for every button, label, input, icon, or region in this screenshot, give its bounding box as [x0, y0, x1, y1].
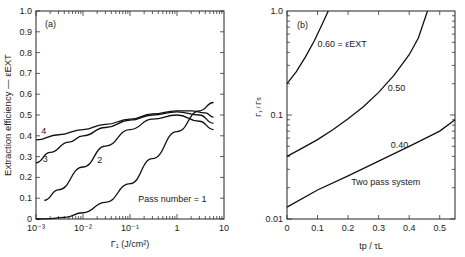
y-tick-label-a: 0.4: [19, 131, 32, 141]
series-line-eext-0_40: [287, 120, 455, 207]
y-tick-label-a: 0.3: [19, 152, 32, 162]
series-label-pass-4: 4: [41, 126, 46, 136]
y-tick-label-a: 0.1: [19, 193, 32, 203]
plot-frame-b: [287, 11, 455, 219]
series-line-eext-0_50: [287, 11, 428, 156]
panel-label-b: (b): [297, 20, 308, 30]
y-tick-label-a: 0.7: [19, 68, 32, 78]
y-axis-label-b: Γ₁ / Γs: [255, 97, 262, 117]
y-tick-label-a: 1.0: [19, 6, 32, 16]
x-tick-label-a: 10⁻¹: [121, 223, 139, 233]
x-tick-label-a: 10⁻³: [27, 223, 45, 233]
annotation-pass-number: Pass number = 1: [138, 194, 206, 204]
series-line-pass-2: [44, 115, 213, 200]
panel-b: 0.010.11.000.10.20.30.40.5tp / τLΓ₁ / Γs…: [255, 6, 455, 251]
x-axis-label-a: Γ₁ (J/cm²): [111, 239, 149, 249]
x-tick-label-b: 0.1: [311, 223, 324, 233]
y-tick-label-b: 0.01: [265, 214, 283, 224]
series-label-pass-2: 2: [97, 155, 102, 165]
y-tick-label-a: 0.6: [19, 89, 32, 99]
figure: 00.10.20.30.40.50.60.70.80.91.010⁻³10⁻²1…: [0, 0, 465, 257]
y-tick-label-b: 1.0: [270, 6, 283, 16]
x-tick-label-b: 0.3: [372, 223, 385, 233]
annotation-two-pass: Two pass system: [351, 177, 420, 187]
x-tick-label-a: 1: [174, 223, 179, 233]
x-tick-label-a: 10: [219, 223, 229, 233]
y-tick-label-a: 0.8: [19, 48, 32, 58]
x-tick-label-b: 0.2: [342, 223, 355, 233]
series-label-eext-0_40: 0.40: [391, 140, 409, 150]
series-label-eext-0_60: 0.60 = εEXT: [318, 39, 368, 49]
series-label-pass-3: 3: [43, 154, 48, 164]
series-line-pass-4: [36, 111, 214, 140]
y-axis-label-a: Extraction efficiency — εEXT: [2, 54, 13, 176]
panel-label-a: (a): [45, 19, 56, 29]
x-tick-label-b: 0.4: [403, 223, 416, 233]
y-tick-label-a: 0.5: [19, 110, 32, 120]
x-tick-label-a: 10⁻²: [74, 223, 92, 233]
x-tick-label-b: 0: [284, 223, 289, 233]
panel-a: 00.10.20.30.40.50.60.70.80.91.010⁻³10⁻²1…: [2, 6, 229, 249]
x-tick-label-b: 0.5: [433, 223, 446, 233]
series-label-eext-0_50: 0.50: [388, 83, 406, 93]
y-tick-label-a: 0.2: [19, 172, 32, 182]
y-tick-label-b: 0.1: [270, 110, 283, 120]
y-tick-label-a: 0.9: [19, 27, 32, 37]
x-axis-label-b: tp / τL: [359, 241, 383, 251]
